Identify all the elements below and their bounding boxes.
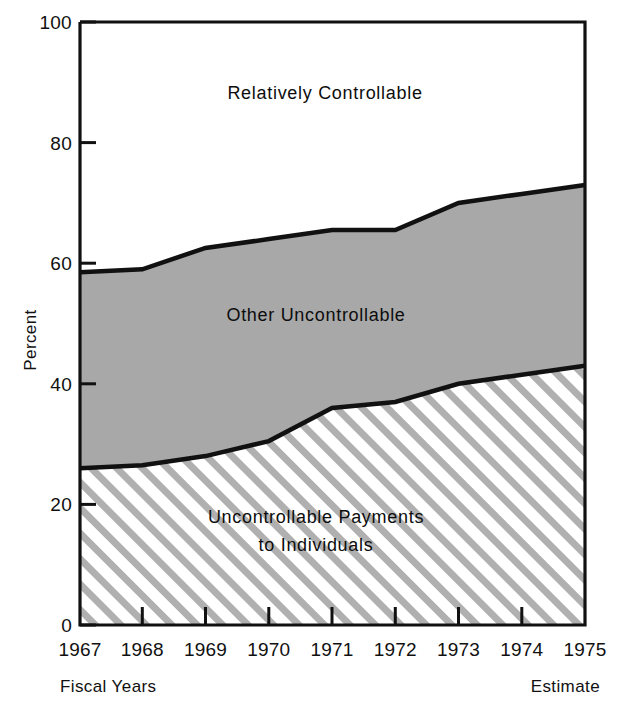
series-label-uncontrollable-payments-line2: to Individuals [259,535,374,555]
series-label-other-uncontrollable: Other Uncontrollable [226,305,405,325]
chart-figure: 100 80 60 40 20 0 Percent 1967 1968 1969… [0,0,625,715]
y-tick-label-40: 40 [50,374,72,395]
x-tick-label-1972: 1972 [374,639,417,660]
x-tick-label-1974: 1974 [500,639,543,660]
y-tick-label-100: 100 [39,12,72,33]
x-tick-label-1971: 1971 [310,639,353,660]
estimate-note: Estimate [531,677,600,696]
y-axis-title: Percent [21,309,40,370]
series-label-uncontrollable-payments-line1: Uncontrollable Payments [208,507,424,527]
y-tick-label-0: 0 [61,615,72,636]
fiscal-years-note: Fiscal Years [60,677,156,696]
x-tick-label-1967: 1967 [58,639,101,660]
y-tick-label-60: 60 [50,253,72,274]
x-tick-label-1973: 1973 [437,639,480,660]
x-tick-label-1969: 1969 [184,639,227,660]
x-tick-label-1968: 1968 [121,639,164,660]
y-tick-label-20: 20 [50,494,72,515]
x-tick-label-1975: 1975 [563,639,606,660]
y-tick-label-80: 80 [50,133,72,154]
area-chart: 100 80 60 40 20 0 Percent 1967 1968 1969… [0,0,625,715]
x-tick-label-1970: 1970 [247,639,290,660]
series-label-relatively-controllable: Relatively Controllable [227,83,422,103]
